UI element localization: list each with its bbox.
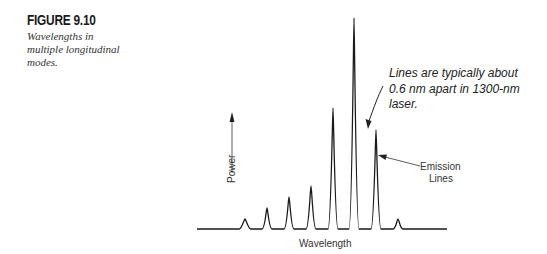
spectrum-diagram: Power Wavelength Lines are typically abo… <box>0 0 547 254</box>
spacing-annotation: Lines are typically about 0.6 nm apart i… <box>389 66 523 111</box>
y-axis-label: Power <box>226 154 237 183</box>
emission-label-line-2: Lines <box>429 173 453 184</box>
emission-pointer-arrow <box>378 155 420 167</box>
spectrum-curve <box>197 18 447 229</box>
x-axis-label: Wavelength <box>299 238 351 249</box>
emission-label-line-1: Emission <box>420 161 461 172</box>
emission-lines-label: Emission Lines <box>420 161 463 184</box>
spacing-arrow <box>366 86 384 129</box>
annotation-line-2: 0.6 nm apart in 1300-nm <box>389 82 520 96</box>
annotation-line-3: laser. <box>389 97 418 111</box>
annotation-line-1: Lines are typically about <box>389 66 518 80</box>
